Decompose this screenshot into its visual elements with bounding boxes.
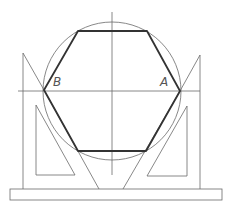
hexagon-construction-diagram: B A (0, 0, 233, 212)
vertex-label-b: B (53, 75, 61, 89)
left-inner-set-square (36, 105, 75, 175)
base-ruler (10, 189, 222, 200)
vertex-label-a: A (159, 75, 168, 89)
right-outer-set-square (180, 55, 200, 189)
left-outer-set-square (23, 53, 44, 189)
right-inner-set-square (147, 106, 187, 176)
